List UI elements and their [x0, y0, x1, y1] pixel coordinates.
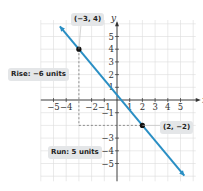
x-axis-arrow-icon [196, 98, 201, 102]
coordinate-plane: −5−4−2−11234554321−1−3−4−5xy [0, 0, 203, 191]
point-label-2-neg2: (2, −2) [160, 121, 193, 134]
x-tick-label: −2 [85, 102, 98, 112]
x-tick-label: 3 [152, 102, 157, 112]
y-tick-label: 4 [109, 44, 114, 54]
y-tick-label: 3 [109, 57, 114, 67]
y-axis-label: y [110, 13, 117, 23]
x-tick-label: −4 [60, 102, 73, 112]
y-tick-label: −4 [101, 146, 114, 156]
y-tick-label: −3 [101, 133, 114, 143]
run-annotation: Run: 5 units [48, 146, 102, 159]
y-tick-label: −1 [101, 108, 114, 118]
y-tick-label: −5 [101, 159, 114, 169]
y-tick-label: 5 [109, 32, 114, 42]
point-label-neg3-4: (−3, 4) [71, 13, 104, 26]
x-tick-label: 2 [140, 102, 145, 112]
x-tick-label: −5 [47, 102, 60, 112]
rise-annotation: Rise: −6 units [8, 68, 69, 81]
x-tick-label: 4 [165, 102, 170, 112]
label-connector [79, 26, 81, 49]
x-tick-label: 5 [178, 102, 183, 112]
x-axis-label: x [202, 95, 203, 105]
y-tick-label: 2 [109, 70, 114, 80]
